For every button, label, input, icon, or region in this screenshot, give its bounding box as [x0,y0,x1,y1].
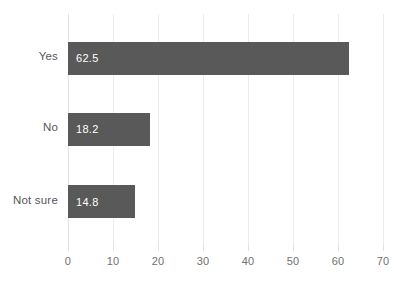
x-tick-label: 20 [152,255,165,267]
chart-title [30,0,370,3]
x-tick-label: 30 [197,255,210,267]
x-tick-30 [203,244,204,251]
bars-layer: 62.518.214.8 [68,14,383,244]
x-tick-40 [248,244,249,251]
x-axis: 010203040506070 [68,244,383,274]
x-tick-label: 60 [332,255,345,267]
bar-no[interactable]: 18.2 [68,113,150,146]
category-label-yes: Yes [39,50,58,62]
bar-value-label: 14.8 [76,196,99,208]
bar-row: 18.2 [68,113,383,146]
gridline-70 [383,14,384,244]
bar-row: 14.8 [68,185,383,218]
x-tick-10 [113,244,114,251]
x-tick-label: 50 [287,255,300,267]
x-tick-label: 70 [377,255,390,267]
bar-value-label: 62.5 [76,52,99,64]
x-tick-20 [158,244,159,251]
x-tick-label: 40 [242,255,255,267]
category-label-not-sure: Not sure [13,194,58,206]
x-tick-70 [383,244,384,251]
x-tick-label: 10 [107,255,120,267]
x-tick-0 [68,244,69,251]
bar-row: 62.5 [68,42,383,75]
category-label-no: No [43,121,58,133]
x-tick-60 [338,244,339,251]
bar-value-label: 18.2 [76,123,99,135]
x-tick-label: 0 [65,255,71,267]
bar-not-sure[interactable]: 14.8 [68,185,135,218]
x-tick-50 [293,244,294,251]
plot-area: 62.518.214.8 [68,14,383,244]
bar-yes[interactable]: 62.5 [68,42,349,75]
bar-chart: 62.518.214.8 010203040506070 YesNoNot su… [0,0,402,281]
